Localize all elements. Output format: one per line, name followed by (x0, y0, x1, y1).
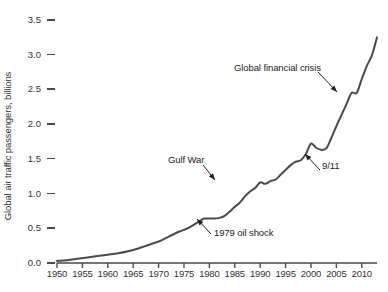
air-traffic-line-chart: Global air traffic passengers, billions … (0, 0, 388, 292)
annotation-1979-oil-shock: 1979 oil shock (214, 227, 273, 238)
x-axis (57, 263, 377, 268)
annotation-arrow-group (197, 72, 337, 234)
annotation-gulf-war: Gulf War (168, 154, 204, 165)
plot-area (0, 0, 388, 292)
annotation-nine-eleven: 9/11 (322, 160, 339, 171)
annotation-global-financial-crisis: Global financial crisis (234, 62, 321, 73)
